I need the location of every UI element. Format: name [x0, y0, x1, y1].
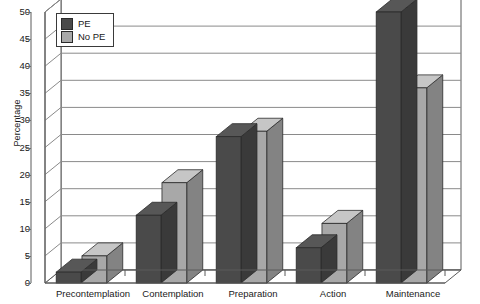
- legend-swatch-pe: [61, 18, 73, 30]
- x-axis-tick-label: Maintenance: [333, 288, 480, 299]
- legend: PE No PE: [56, 13, 114, 47]
- y-axis-tickmark: [26, 283, 31, 284]
- legend-label-no-pe: No PE: [78, 32, 105, 42]
- y-axis-tickmark: [26, 202, 31, 203]
- legend-item-no-pe: No PE: [61, 30, 105, 43]
- y-axis-tickmark: [26, 120, 31, 121]
- legend-label-pe: PE: [78, 19, 91, 29]
- legend-swatch-no-pe: [61, 31, 73, 43]
- y-axis-tickmark: [26, 66, 31, 67]
- bar-chart: Percentage 05101520253035404550 Preconte…: [0, 0, 480, 304]
- y-axis-tickmark: [26, 256, 31, 257]
- y-axis-tickmark: [26, 12, 31, 13]
- y-axis-tickmark: [26, 93, 31, 94]
- y-axis-tickmark: [26, 229, 31, 230]
- y-axis-tickmark: [26, 175, 31, 176]
- legend-item-pe: PE: [61, 17, 105, 30]
- y-axis-tickmark: [26, 148, 31, 149]
- y-axis-tickmark: [26, 39, 31, 40]
